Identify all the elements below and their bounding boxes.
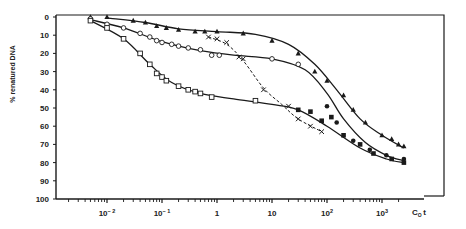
y-axis: 0102030405060708090100 [36,13,56,204]
fitted-curves [90,18,404,163]
data-point-square-open [193,89,198,94]
x-axis-title: COt [412,208,426,218]
data-point-x [319,129,324,134]
data-point-circle-open [186,46,191,51]
data-point-circle-open [121,26,126,31]
data-point-circle-open [147,35,152,40]
y-tick-label: 30 [40,68,49,77]
data-point-square-open [154,71,159,76]
data-point-circle-filled [384,153,389,158]
data-point-square-filled [308,109,313,114]
data-point-circle-filled [351,138,356,143]
y-tick-label: 10 [40,31,49,40]
data-point-square-filled [402,160,407,165]
y-tick-label: 40 [40,86,49,95]
x-tick-label: 102 [321,208,333,218]
data-point-circle-open [154,38,159,43]
data-point-square-filled [389,157,394,162]
renaturation-chart: 0102030405060708090100 10− 210− 11101021… [0,0,466,229]
data-point-circle-filled [325,104,330,109]
fit-curve [90,20,404,161]
y-tick-label: 100 [36,195,50,204]
data-point-square-open [105,26,110,31]
data-point-circle-open [176,44,181,49]
x-axis: 10− 210− 1110102103 [69,199,399,218]
data-point-triangle-filled [312,69,317,74]
data-point-circle-open [270,57,275,62]
data-point-square-open [186,88,191,93]
x-axis-title-sub: O [418,212,422,218]
data-point-square-open [198,91,203,96]
x-tick-label: 103 [376,208,388,218]
data-point-square-open [88,18,93,23]
data-point-square-open [121,37,126,42]
data-point-circle-open [169,42,174,47]
data-point-circle-open [138,31,143,36]
data-point-square-filled [329,115,334,120]
y-tick-label: 20 [40,49,49,58]
frame-top-right [56,15,444,196]
x-tick-label: 10 [268,209,277,218]
data-point-square-filled [341,133,346,138]
data-point-circle-filled [334,120,339,125]
data-point-square-open [209,95,214,100]
data-point-square-filled [358,142,363,147]
data-point-circle-open [160,40,165,45]
data-point-circle-open [296,62,301,67]
x-tick-label: 10− 2 [99,208,116,218]
x-tick-label: 1 [215,209,220,218]
fit-curve [209,37,322,132]
data-point-triangle-filled [341,92,346,97]
data-point-square-open [138,51,143,56]
data-point-circle-open [217,53,222,58]
plot-frame [56,15,444,199]
data-point-square-open [164,78,169,83]
y-tick-label: 0 [45,13,50,22]
data-markers [88,14,407,165]
data-point-circle-open [198,47,203,52]
data-point-circle-open [209,53,214,58]
y-tick-label: 90 [40,177,49,186]
data-point-triangle-filled [401,143,406,148]
data-point-square-filled [319,118,324,123]
data-point-square-filled [296,108,301,113]
y-tick-label: 60 [40,122,49,131]
data-point-square-filled [371,151,376,156]
y-tick-label: 50 [40,104,49,113]
data-point-x [296,117,301,122]
data-point-square-open [253,98,258,103]
fit-curve [90,21,404,163]
y-tick-label: 70 [40,140,49,149]
data-point-x [206,35,211,40]
data-point-x [224,40,229,45]
data-point-triangle-filled [389,136,394,141]
y-axis-title: % renatured DNA [9,45,16,103]
x-tick-label: 10− 1 [154,208,171,218]
y-tick-label: 80 [40,159,49,168]
data-point-square-open [147,62,152,67]
data-point-x [308,124,313,129]
x-axis-title-suffix: t [423,208,426,217]
data-point-square-open [176,84,181,89]
data-point-triangle-filled [379,133,384,138]
